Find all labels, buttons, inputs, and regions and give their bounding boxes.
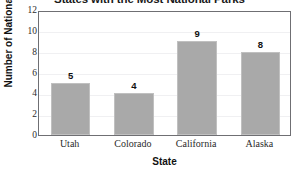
y-tick-label: 12 — [11, 6, 37, 15]
bar-group[interactable]: 5 — [51, 12, 91, 135]
bar[interactable] — [241, 52, 281, 135]
y-tick-label: 8 — [11, 48, 37, 57]
y-tick-label: 4 — [11, 89, 37, 98]
bar-value-label: 8 — [241, 40, 281, 50]
y-tick-label: 0 — [11, 131, 37, 140]
y-tick-label: 6 — [11, 69, 37, 78]
plot-inner: 5498 — [39, 12, 290, 135]
x-tick-label: Colorado — [101, 138, 164, 149]
bar-value-label: 9 — [177, 29, 217, 39]
plot-area: 5498 — [38, 11, 291, 136]
bar[interactable] — [177, 41, 217, 135]
x-tick-label: Utah — [38, 138, 101, 149]
bar-group[interactable]: 4 — [114, 12, 154, 135]
bar-group[interactable]: 8 — [241, 12, 281, 135]
x-tick-label: California — [165, 138, 228, 149]
chart-title: States with the Most National Parks — [0, 0, 299, 5]
bar-chart-figure: States with the Most National Parks Numb… — [0, 0, 299, 172]
bar[interactable] — [114, 93, 154, 135]
bar-value-label: 4 — [114, 81, 154, 91]
bar-group[interactable]: 9 — [177, 12, 217, 135]
y-tick-label: 10 — [11, 27, 37, 36]
bar[interactable] — [51, 83, 91, 135]
y-tick-label: 2 — [11, 110, 37, 119]
x-axis-title: State — [38, 156, 291, 167]
x-tick-label: Alaska — [228, 138, 291, 149]
bar-value-label: 5 — [51, 71, 91, 81]
